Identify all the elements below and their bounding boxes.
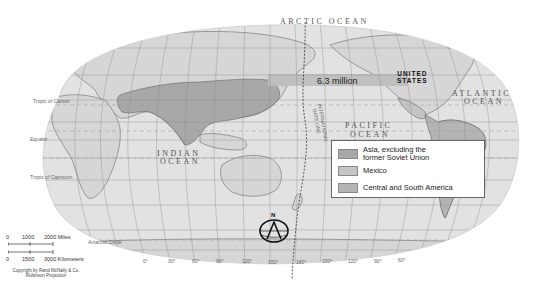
legend-item-central-south-america: Central and South America — [338, 183, 453, 193]
legend-label: Asia, excluding the former Soviet Union — [363, 146, 429, 162]
map-legend: Asia, excluding the former Soviet Union … — [331, 140, 485, 198]
mexico-swatch — [338, 166, 358, 176]
scale-km-0: 0 — [6, 256, 9, 262]
scale-km-3000: 3000 Kilometers — [44, 256, 84, 262]
equator-label: Equator — [30, 136, 48, 142]
svg-text:N: N — [271, 212, 275, 218]
legend-item-mexico: Mexico — [338, 166, 387, 176]
svg-text:90°: 90° — [374, 258, 382, 264]
scale-km-1500: 1500 — [22, 256, 34, 262]
atlantic-ocean-label-2: OCEAN — [464, 97, 504, 106]
legend-item-asia: Asia, excluding the former Soviet Union — [338, 146, 429, 162]
svg-text:30°: 30° — [168, 258, 176, 264]
svg-text:180°: 180° — [296, 259, 306, 265]
legend-label: Mexico — [363, 167, 387, 175]
scale-miles-2000: 2000 Miles — [44, 234, 71, 240]
svg-text:60°: 60° — [192, 258, 200, 264]
svg-text:150°: 150° — [268, 259, 278, 265]
migration-flow-label: 6.3 million — [317, 76, 358, 86]
scale-miles-0: 0 — [6, 234, 9, 240]
svg-text:120°: 120° — [348, 258, 358, 264]
copyright-note: Copyright by Rand McNally & Co. Robinson… — [6, 268, 86, 278]
indian-ocean-label-2: OCEAN — [160, 157, 200, 166]
scale-miles-1000: 1000 — [22, 234, 34, 240]
pacific-ocean-label-2: OCEAN — [350, 130, 390, 139]
tropic-of-cancer-label: Tropic of Cancer — [33, 98, 70, 104]
legend-label: Central and South America — [363, 184, 453, 192]
united-states-label: UNITED STATES — [397, 70, 428, 84]
tropic-of-capricorn-label: Tropic of Capricorn — [30, 174, 73, 180]
svg-text:60°: 60° — [398, 257, 406, 263]
svg-text:150°: 150° — [322, 258, 332, 264]
central-south-america-swatch — [338, 183, 358, 193]
arctic-ocean-label: ARCTIC OCEAN — [280, 17, 369, 26]
svg-text:90°: 90° — [216, 258, 224, 264]
asia-swatch — [338, 149, 358, 159]
svg-text:0°: 0° — [143, 258, 148, 264]
scale-bar-lines — [8, 242, 72, 256]
pacific-ocean-label: PACIFIC — [345, 121, 392, 130]
svg-text:120°: 120° — [242, 258, 252, 264]
